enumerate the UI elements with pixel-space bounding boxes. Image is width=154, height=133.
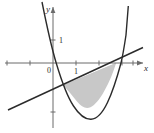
math-figure: 0 1 1 x y <box>0 0 154 133</box>
line-curve <box>8 48 143 111</box>
figure-container: 0 1 1 x y <box>0 0 154 133</box>
y-axis-label: y <box>45 4 50 14</box>
y-axis-arrow <box>51 7 56 13</box>
x-axis-label: x <box>143 63 148 73</box>
x-tick-label-1: 1 <box>74 67 78 76</box>
origin-label: 0 <box>47 66 51 75</box>
y-tick-label-1: 1 <box>59 36 63 45</box>
x-axis-arrow <box>137 61 143 66</box>
